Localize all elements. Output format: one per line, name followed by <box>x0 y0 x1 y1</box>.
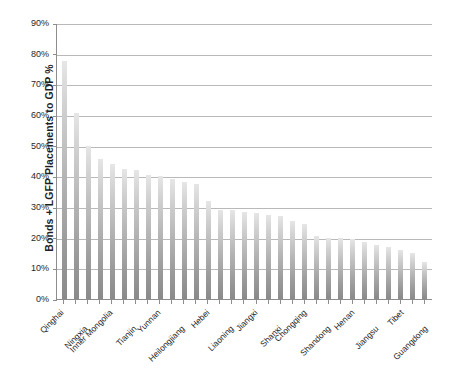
bar[interactable] <box>290 221 295 299</box>
bar-slot <box>238 24 250 299</box>
x-axis-labels: QinghaiNingxiaInner MongoliaTianjinYunna… <box>56 300 432 378</box>
bar[interactable] <box>302 224 307 299</box>
bar-slot <box>407 24 419 299</box>
bar[interactable] <box>122 169 127 299</box>
bar[interactable] <box>110 164 115 299</box>
bar-slot <box>335 24 347 299</box>
bar[interactable] <box>194 184 199 299</box>
y-tick-label: 70% <box>7 79 49 89</box>
bar-slot <box>419 24 431 299</box>
y-tick-label: 40% <box>7 171 49 181</box>
bar-slot <box>130 24 142 299</box>
bar-slot <box>383 24 395 299</box>
plot-area: 90%80%70%60%50%40%30%20%10%0% <box>56 24 432 300</box>
bar[interactable] <box>146 175 151 299</box>
bar[interactable] <box>242 212 247 299</box>
bar[interactable] <box>374 245 379 299</box>
y-tick-label: 60% <box>7 110 49 120</box>
y-tick-label: 50% <box>7 141 49 151</box>
bar-slot <box>251 24 263 299</box>
bar[interactable] <box>62 61 67 299</box>
bar[interactable] <box>266 215 271 299</box>
y-tick-label: 30% <box>7 202 49 212</box>
bar-slot <box>347 24 359 299</box>
bar-slot <box>323 24 335 299</box>
bar-slot <box>263 24 275 299</box>
bar-slot <box>178 24 190 299</box>
bar[interactable] <box>386 247 391 299</box>
bar[interactable] <box>278 216 283 299</box>
bar-slot <box>166 24 178 299</box>
bar[interactable] <box>98 159 103 299</box>
bar[interactable] <box>398 250 403 299</box>
bar-slot <box>299 24 311 299</box>
y-tick-label: 10% <box>7 263 49 273</box>
bar[interactable] <box>182 182 187 299</box>
bar-slot <box>202 24 214 299</box>
bar[interactable] <box>314 236 319 299</box>
bar-slot <box>94 24 106 299</box>
bar[interactable] <box>170 179 175 299</box>
bar-slot <box>190 24 202 299</box>
bar-series <box>57 24 432 299</box>
bar-slot <box>142 24 154 299</box>
bar[interactable] <box>326 238 331 299</box>
bar-slot <box>275 24 287 299</box>
bar-slot <box>287 24 299 299</box>
bar[interactable] <box>338 238 343 299</box>
bar-slot <box>82 24 94 299</box>
bar-slot <box>154 24 166 299</box>
bar[interactable] <box>158 176 163 299</box>
bar-chart: Bonds + LGFP Placements to GDP % 90%80%7… <box>0 0 451 378</box>
bar-slot <box>226 24 238 299</box>
bar[interactable] <box>422 262 427 299</box>
bar[interactable] <box>230 210 235 299</box>
bar-slot <box>58 24 70 299</box>
bar-slot <box>395 24 407 299</box>
bar[interactable] <box>206 201 211 299</box>
bar[interactable] <box>86 146 91 299</box>
bar[interactable] <box>350 239 355 299</box>
y-tick-label: 20% <box>7 233 49 243</box>
y-tick-label: 80% <box>7 49 49 59</box>
bar[interactable] <box>134 170 139 299</box>
bar-slot <box>311 24 323 299</box>
bar-slot <box>214 24 226 299</box>
bar[interactable] <box>74 113 79 299</box>
bar[interactable] <box>410 253 415 299</box>
y-tick-label: 0% <box>7 294 49 304</box>
bar-slot <box>70 24 82 299</box>
bar-slot <box>118 24 130 299</box>
bar[interactable] <box>254 213 259 299</box>
bar-slot <box>359 24 371 299</box>
bar[interactable] <box>362 242 367 299</box>
bar-slot <box>371 24 383 299</box>
y-tick-label: 90% <box>7 18 49 28</box>
bar[interactable] <box>218 210 223 299</box>
bar-slot <box>106 24 118 299</box>
